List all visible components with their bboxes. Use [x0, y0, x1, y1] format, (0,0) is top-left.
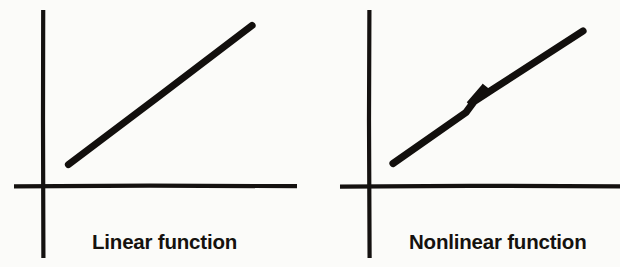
caption-linear-function: Linear function — [92, 232, 237, 253]
nonlinear-horizontal-axis — [340, 186, 620, 187]
figure-linear-vs-nonlinear: Linear function Nonlinear function — [0, 0, 620, 267]
linear-horizontal-axis — [14, 186, 297, 187]
linear-function-line — [69, 26, 253, 165]
nonlinear-vertical-axis — [369, 10, 370, 258]
caption-nonlinear-function: Nonlinear function — [409, 232, 586, 253]
panel-nonlinear — [340, 10, 620, 258]
figure-drawing — [0, 0, 620, 267]
nonlinear-function-line — [393, 31, 583, 164]
panel-linear — [14, 10, 297, 258]
